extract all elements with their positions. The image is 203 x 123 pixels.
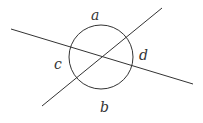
label-c: c	[54, 56, 62, 72]
label-b: b	[100, 99, 109, 115]
diagram-canvas: a c d b	[0, 0, 203, 123]
circle	[69, 25, 133, 89]
label-a: a	[91, 7, 99, 23]
label-d: d	[139, 47, 148, 63]
